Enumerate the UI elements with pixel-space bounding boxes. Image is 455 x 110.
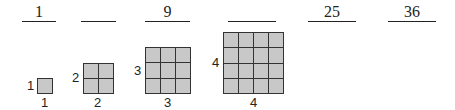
square-2-bottom-label: 2	[94, 96, 101, 110]
square-3-side-label: 3	[134, 64, 141, 78]
square-1-side-label: 1	[27, 79, 34, 93]
square-2-side-label: 2	[72, 71, 79, 85]
square-4	[223, 32, 284, 94]
square-3-bottom-label: 3	[164, 96, 171, 110]
blank-6[interactable]: 36	[388, 3, 436, 22]
blank-5[interactable]: 25	[308, 3, 356, 22]
square-1	[37, 78, 53, 94]
square-3	[145, 47, 191, 94]
square-4-bottom-label: 4	[250, 96, 257, 110]
square-1-bottom-label: 1	[41, 96, 48, 110]
blank-4[interactable]	[228, 3, 276, 22]
square-4-side-label: 4	[212, 56, 219, 70]
blank-3[interactable]: 9	[145, 3, 190, 22]
blank-2[interactable]	[81, 3, 116, 22]
square-2	[83, 63, 114, 94]
blank-1[interactable]: 1	[22, 3, 56, 22]
